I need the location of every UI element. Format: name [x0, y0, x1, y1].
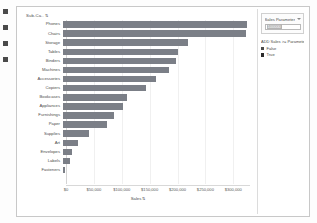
- bar-row[interactable]: Labels: [26, 156, 250, 165]
- sort-icon[interactable]: ⇅: [45, 13, 48, 18]
- bar-track: [63, 29, 250, 38]
- bar-category-label[interactable]: Binders: [26, 59, 63, 63]
- bar-row[interactable]: Phones: [26, 20, 250, 29]
- bar[interactable]: [63, 21, 247, 28]
- axis-sort-icon[interactable]: ⇅: [142, 196, 145, 201]
- x-axis: $0$50,000$100,000$150,000$200,000$250,00…: [26, 185, 250, 195]
- bar-row[interactable]: Paper: [26, 120, 250, 129]
- bar[interactable]: [63, 30, 246, 37]
- bar-chart-worksheet: Sub-Ca..⇅ PhonesChairsStorageTablesBinde…: [19, 9, 255, 214]
- bar-category-label[interactable]: Art: [26, 141, 63, 145]
- bar[interactable]: [63, 58, 176, 65]
- bar[interactable]: [63, 140, 78, 147]
- x-axis-title[interactable]: Sales⇅: [26, 196, 250, 201]
- bar-category-label[interactable]: Machines: [26, 68, 63, 72]
- bar[interactable]: [63, 85, 146, 92]
- bar[interactable]: [63, 39, 188, 46]
- x-axis-tick-label: $50,000: [86, 187, 101, 192]
- bar[interactable]: [63, 149, 72, 156]
- bar[interactable]: [63, 130, 89, 137]
- bar-row[interactable]: Appliances: [26, 102, 250, 111]
- bar-track: [63, 102, 250, 111]
- bar-track: [63, 120, 250, 129]
- legend-label: True: [266, 52, 274, 57]
- bar-category-label[interactable]: Phones: [26, 22, 63, 26]
- bar-row[interactable]: Accessories: [26, 75, 250, 84]
- chevron-down-icon[interactable]: [297, 18, 301, 20]
- bar-track: [63, 147, 250, 156]
- x-axis-tick-label: $0: [64, 187, 69, 192]
- sub-category-field-label[interactable]: Sub-Ca..⇅: [26, 13, 48, 18]
- bar-category-label[interactable]: Storage: [26, 41, 63, 45]
- left-gutter: [0, 0, 14, 223]
- legend-item[interactable]: True: [261, 52, 304, 57]
- bar-category-label[interactable]: Chairs: [26, 32, 63, 36]
- parameter-input[interactable]: 100000: [265, 24, 301, 30]
- bar-category-label[interactable]: Bookcases: [26, 95, 63, 99]
- sub-category-label-text: Sub-Ca..: [26, 13, 44, 18]
- bar[interactable]: [63, 121, 107, 128]
- legend-items: FalseTrue: [261, 46, 304, 58]
- legend: ADD Sales >= Parameter FalseTrue: [261, 39, 304, 58]
- bar-track: [63, 65, 250, 74]
- bar-track: [63, 156, 250, 165]
- gutter-mark: [3, 41, 8, 46]
- bar-category-label[interactable]: Copiers: [26, 86, 63, 90]
- bar-track: [63, 111, 250, 120]
- bar-category-label[interactable]: Paper: [26, 122, 63, 126]
- bar-category-label[interactable]: Supplies: [26, 132, 63, 136]
- gutter-mark: [3, 57, 8, 62]
- bar[interactable]: [63, 112, 114, 119]
- screenshot-root: Sub-Ca..⇅ PhonesChairsStorageTablesBinde…: [0, 0, 317, 223]
- x-axis-tick-label: $150,000: [141, 187, 158, 192]
- bar-row[interactable]: Envelopes: [26, 147, 250, 156]
- gutter-mark: [3, 9, 8, 14]
- bar-row[interactable]: Tables: [26, 47, 250, 56]
- bar-row[interactable]: Fasteners: [26, 166, 250, 175]
- parameter-header: Sales Parameter: [265, 17, 301, 22]
- bar-category-label[interactable]: Labels: [26, 159, 63, 163]
- control-panel: Sales Parameter 100000 ADD Sales >= Para…: [257, 9, 307, 214]
- bar-track: [63, 20, 250, 29]
- legend-label: False: [266, 46, 276, 51]
- x-axis-tick-label: $100,000: [113, 187, 130, 192]
- x-axis-tick-label: $200,000: [169, 187, 186, 192]
- x-axis-title-text: Sales: [131, 196, 142, 201]
- bar-row[interactable]: Storage: [26, 38, 250, 47]
- bar-category-label[interactable]: Accessories: [26, 77, 63, 81]
- bar[interactable]: [63, 94, 127, 101]
- bar-rows: PhonesChairsStorageTablesBindersMachines…: [26, 20, 250, 175]
- bar-category-label[interactable]: Envelopes: [26, 150, 63, 154]
- bar-row[interactable]: Copiers: [26, 84, 250, 93]
- bar-track: [63, 75, 250, 84]
- bar-category-label[interactable]: Furnishings: [26, 113, 63, 117]
- bar-track: [63, 84, 250, 93]
- x-axis-tick-label: $300,000: [225, 187, 242, 192]
- bar[interactable]: [63, 158, 70, 165]
- bar-row[interactable]: Chairs: [26, 29, 250, 38]
- bar[interactable]: [63, 49, 178, 56]
- bar-category-label[interactable]: Fasteners: [26, 168, 63, 172]
- legend-item[interactable]: False: [261, 46, 304, 51]
- bar-track: [63, 56, 250, 65]
- bar-track: [63, 138, 250, 147]
- bar-row[interactable]: Art: [26, 138, 250, 147]
- bar-track: [63, 166, 250, 175]
- bar[interactable]: [63, 103, 123, 110]
- x-axis-line: [66, 185, 250, 186]
- bar-category-label[interactable]: Appliances: [26, 104, 63, 108]
- bar-row[interactable]: Furnishings: [26, 111, 250, 120]
- bar[interactable]: [63, 67, 169, 74]
- bar-row[interactable]: Binders: [26, 56, 250, 65]
- dashboard-frame: Sub-Ca..⇅ PhonesChairsStorageTablesBinde…: [16, 6, 310, 217]
- bar[interactable]: [63, 167, 65, 174]
- legend-title: ADD Sales >= Parameter: [261, 39, 304, 44]
- bar-row[interactable]: Bookcases: [26, 93, 250, 102]
- bar[interactable]: [63, 76, 156, 83]
- bar-track: [63, 129, 250, 138]
- bar-row[interactable]: Machines: [26, 65, 250, 74]
- parameter-title: Sales Parameter: [265, 17, 295, 22]
- bar-row[interactable]: Supplies: [26, 129, 250, 138]
- bar-category-label[interactable]: Tables: [26, 50, 63, 54]
- legend-swatch-icon: [261, 53, 264, 56]
